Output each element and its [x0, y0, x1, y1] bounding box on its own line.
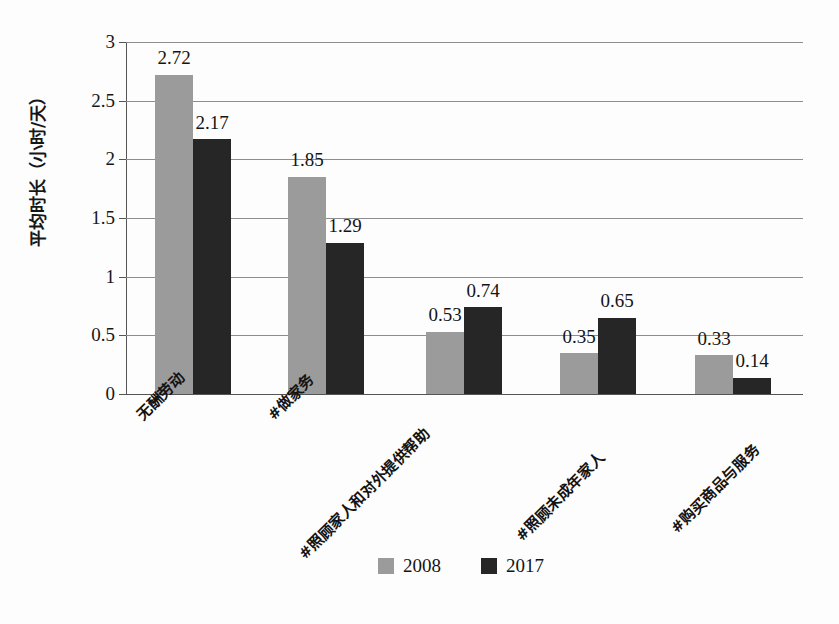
legend-item-2008[interactable]: 2008 [378, 556, 441, 575]
legend-item-2017[interactable]: 2017 [481, 556, 544, 575]
bar-2017-4[interactable] [733, 378, 771, 394]
bar-2008-3[interactable] [560, 353, 598, 394]
category-label-2: #照顾家人和对外提供帮助 [293, 422, 433, 562]
gridline-0: 0 [126, 394, 803, 395]
bar-label-2008-0: 2.72 [157, 47, 190, 69]
bar-label-2017-2: 0.74 [466, 280, 499, 302]
y-tick-label-0point5: 0.5 [91, 324, 115, 346]
legend: 2008 2017 [378, 556, 544, 575]
bar-2008-0[interactable] [155, 75, 193, 394]
category-label-4: #购买商品与服务 [665, 439, 763, 537]
bar-label-2017-3: 0.65 [600, 290, 633, 312]
y-tick-label-2: 2 [106, 148, 116, 170]
legend-label-2017: 2017 [506, 556, 544, 575]
category-label-3: #照顾未成年家人 [510, 447, 608, 545]
y-axis-title: 平均时长（小时/天） [24, 58, 49, 278]
tick-mark-2point5 [119, 101, 126, 102]
bar-label-2008-1: 1.85 [290, 149, 323, 171]
tick-mark-3 [119, 42, 126, 43]
gridline-2point5: 2.5 [126, 101, 803, 102]
bar-label-2008-3: 0.35 [562, 326, 595, 348]
bar-label-2008-2: 0.53 [428, 304, 461, 326]
gridline-3: 3 [126, 42, 803, 43]
bar-label-2008-4: 0.33 [697, 328, 730, 350]
legend-swatch-2017 [481, 558, 497, 574]
bar-label-2017-0: 2.17 [195, 112, 228, 134]
bar-chart: 平均时长（小时/天） 3 2.5 2 1.5 1 0.5 [0, 0, 839, 624]
bar-2017-0[interactable] [193, 139, 231, 394]
legend-label-2008: 2008 [403, 556, 441, 575]
y-tick-label-1: 1 [106, 266, 116, 288]
bar-2017-2[interactable] [464, 307, 502, 394]
y-tick-label-2point5: 2.5 [91, 90, 115, 112]
legend-swatch-2008 [378, 558, 394, 574]
tick-mark-1 [119, 277, 126, 278]
tick-mark-0 [119, 394, 126, 395]
bar-2008-2[interactable] [426, 332, 464, 394]
bar-label-2017-4: 0.14 [735, 350, 768, 372]
tick-mark-0point5 [119, 335, 126, 336]
bar-2008-4[interactable] [695, 355, 733, 394]
tick-mark-2 [119, 159, 126, 160]
plot-area: 3 2.5 2 1.5 1 0.5 0 2.72 2.17 [126, 42, 803, 394]
tick-mark-1point5 [119, 218, 126, 219]
y-tick-label-3: 3 [106, 31, 116, 53]
y-tick-label-0: 0 [106, 383, 116, 405]
bar-label-2017-1: 1.29 [328, 215, 361, 237]
bar-2017-1[interactable] [326, 243, 364, 394]
bar-2008-1[interactable] [288, 177, 326, 394]
y-tick-label-1point5: 1.5 [91, 207, 115, 229]
bar-2017-3[interactable] [598, 318, 636, 394]
